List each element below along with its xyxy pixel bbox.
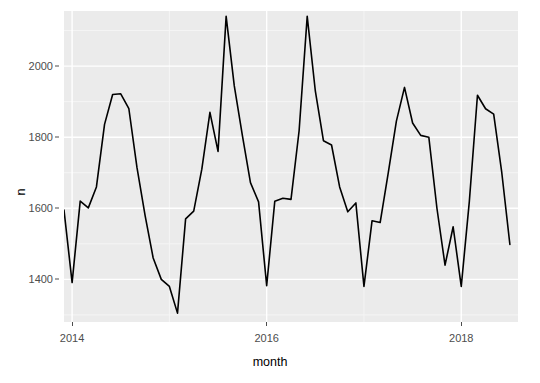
x-axis-title: month [0, 355, 540, 369]
plot-panel [64, 11, 518, 322]
x-axis-tick-labels: 201420162018 [0, 322, 540, 352]
x-axis-tick-mark [72, 322, 73, 326]
grid-major [64, 11, 518, 322]
y-axis-tick-mark [55, 137, 59, 138]
x-axis-tick-label: 2016 [254, 332, 278, 344]
y-axis-tick-mark [55, 279, 59, 280]
plot-area [64, 11, 518, 322]
y-axis-tick-label: 1600 [29, 202, 53, 214]
grid-minor [64, 11, 518, 322]
y-axis-tick-label: 1400 [29, 273, 53, 285]
x-axis-tick-label: 2014 [60, 332, 84, 344]
x-axis-tick-mark [266, 322, 267, 326]
y-axis-tick-label: 2000 [29, 60, 53, 72]
y-axis-tick-label: 1800 [29, 131, 53, 143]
ggplot-line-chart: n 1400160018002000 201420162018 month [0, 0, 540, 383]
x-axis-tick-mark [461, 322, 462, 326]
x-axis-tick-label: 2018 [449, 332, 473, 344]
y-axis-tick-mark [55, 208, 59, 209]
y-axis-tick-mark [55, 66, 59, 67]
data-series-line [64, 16, 510, 313]
